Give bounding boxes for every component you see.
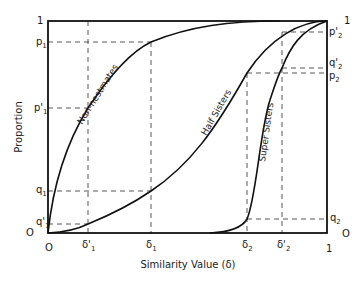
y-axis-title: Proportion (13, 101, 24, 153)
right-tick-p-prime-2: p'2 (329, 26, 343, 40)
label-super-sisters: Super Sisters (257, 102, 275, 163)
x-tick-delta-1: δ1 (146, 239, 157, 253)
left-tick-p-prime-1: p'1 (34, 102, 48, 116)
reference-lines (48, 21, 327, 233)
right-tick-p2: p2 (329, 70, 340, 84)
x-tick-delta-2: δ2 (242, 239, 253, 253)
right-tick-one: 1 (344, 15, 350, 26)
left-tick-q1: q1 (36, 184, 47, 198)
right-tick-zero: O (342, 228, 350, 239)
x-tick-delta-prime-2: δ'2 (277, 239, 290, 253)
left-tick-one: 1 (37, 15, 43, 26)
label-half-sisters: Half Sisters (199, 87, 233, 137)
curve-half-sisters (48, 21, 327, 233)
right-tick-q-prime-2: q'2 (329, 57, 343, 71)
curves (48, 21, 327, 233)
curve-non-nestmates (48, 21, 280, 233)
x-tick-one: 1 (326, 243, 332, 254)
right-tick-q2: q2 (330, 212, 341, 226)
chart: Non-nestmates Half Sisters Super Sisters… (0, 0, 363, 281)
left-tick-p1: p1 (36, 36, 47, 50)
left-tick-zero: O (26, 227, 34, 238)
label-non-nestmates: Non-nestmates (75, 62, 120, 126)
plot-frame (48, 21, 327, 233)
x-tick-delta-prime-1: δ'1 (82, 239, 95, 253)
x-tick-zero: O (45, 242, 53, 253)
x-axis-title: Similarity Value (δ) (140, 259, 235, 270)
